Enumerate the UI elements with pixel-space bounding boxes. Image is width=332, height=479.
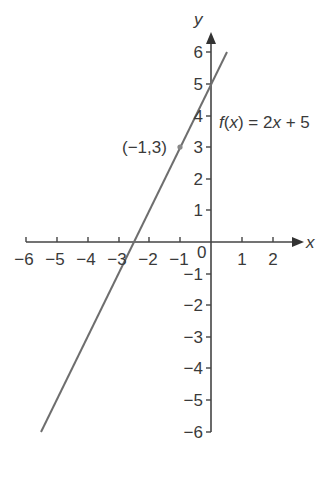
y-axis-label: y: [193, 10, 204, 29]
x-tick-label: −5: [45, 250, 64, 269]
origin-label: 0: [197, 243, 206, 262]
function-label-x2: x: [271, 113, 281, 132]
y-tick-label: −5: [184, 391, 203, 410]
x-tick-label: −6: [14, 250, 33, 269]
function-label-rest: ) = 2: [238, 113, 273, 132]
x-axis-arrow-icon: [292, 237, 304, 247]
x-tick-label: −2: [138, 250, 157, 269]
y-tick-label: 2: [194, 170, 203, 189]
y-tick-label: 3: [194, 138, 203, 157]
y-tick-label: 1: [194, 201, 203, 220]
x-tick-labels: −6 −5 −4 −3 −2 −1 1 2: [14, 250, 277, 269]
axes: [26, 40, 298, 432]
y-axis-arrow-icon: [206, 32, 216, 44]
x-tick-label: −4: [76, 250, 95, 269]
function-label: f(x) = 2x + 5: [219, 113, 310, 132]
y-tick-label: −2: [184, 296, 203, 315]
x-tick-label: 2: [268, 250, 277, 269]
function-label-tail: + 5: [281, 113, 310, 132]
function-label-x: x: [228, 113, 238, 132]
y-tick-label: −6: [184, 423, 203, 442]
point-marker: [177, 144, 182, 149]
y-tick-label: −1: [184, 265, 203, 284]
x-axis-label: x: [305, 233, 315, 252]
y-tick-label: −4: [184, 359, 203, 378]
point-annotation: (−1,3): [122, 138, 167, 157]
x-tick-label: 1: [237, 250, 246, 269]
y-tick-label: 4: [194, 107, 203, 126]
function-graph: y x 0 −6 −5 −4 −3 −2 −1 1 2 1 2 3 4 5 6 …: [0, 0, 332, 479]
y-tick-label: −3: [184, 328, 203, 347]
y-tick-label: 6: [194, 43, 203, 62]
y-tick-label: 5: [194, 75, 203, 94]
x-tick-label: −3: [107, 250, 126, 269]
